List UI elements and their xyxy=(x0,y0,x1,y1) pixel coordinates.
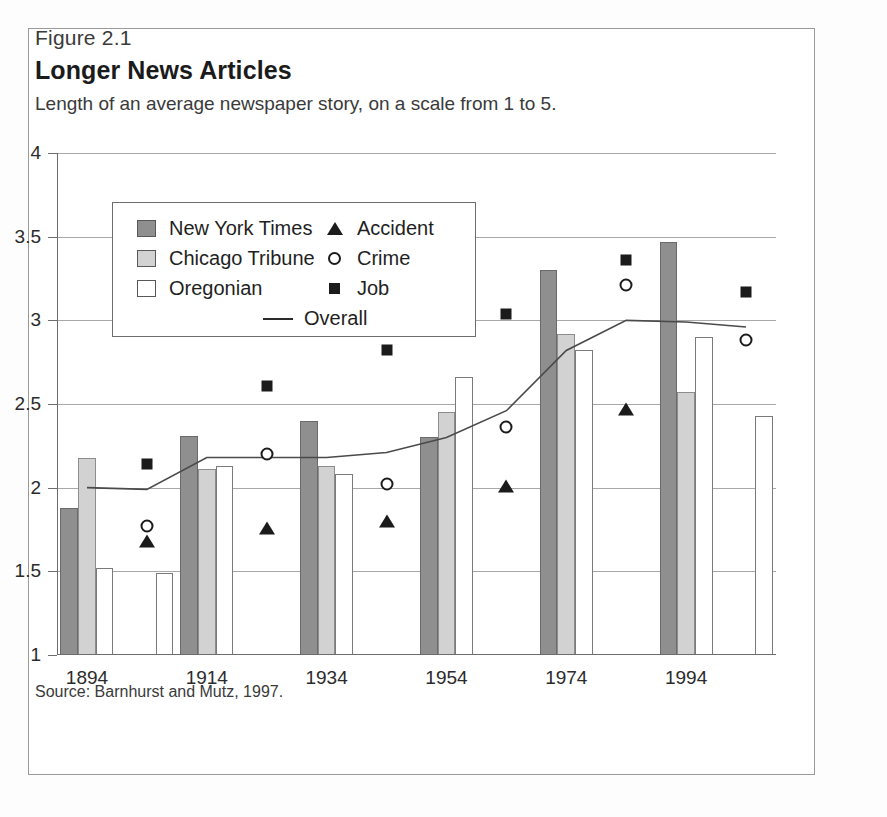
legend-swatch-dark-gray-square-icon xyxy=(137,220,156,237)
marker-accident-filled-triangle-icon xyxy=(139,535,155,548)
legend-item-chicago-tribune[interactable]: Chicago Tribune xyxy=(137,247,315,270)
legend-label: Overall xyxy=(304,307,367,330)
x-axis-line xyxy=(57,654,776,655)
bar xyxy=(96,568,114,655)
x-axis-tick-label: 1994 xyxy=(665,667,707,689)
y-axis-tick-label: 2.5 xyxy=(0,393,41,415)
legend-label: Chicago Tribune xyxy=(169,247,315,270)
y-axis-tick-label: 1.5 xyxy=(0,560,41,582)
legend-item-overall[interactable]: Overall xyxy=(263,307,367,330)
figure-number: Figure 2.1 xyxy=(35,26,132,50)
marker-job-filled-square-icon xyxy=(621,255,632,266)
figure-subtitle: Length of an average newspaper story, on… xyxy=(35,93,556,115)
marker-crime-open-circle-icon xyxy=(380,478,393,491)
x-axis-tick-label: 1934 xyxy=(305,667,347,689)
marker-accident-filled-triangle-icon xyxy=(498,479,514,492)
bar xyxy=(335,474,353,655)
bar xyxy=(216,466,234,655)
marker-job-filled-square-icon xyxy=(741,286,752,297)
solid-line-icon xyxy=(263,318,293,320)
bar xyxy=(660,242,678,655)
legend-item-job[interactable]: Job xyxy=(325,277,389,300)
y-axis-tick xyxy=(48,404,57,405)
marker-accident-filled-triangle-icon xyxy=(379,515,395,528)
legend-label: Job xyxy=(357,277,389,300)
gridline xyxy=(57,153,776,154)
figure-page: Figure 2.1 Longer News Articles Length o… xyxy=(0,0,887,817)
marker-crime-open-circle-icon xyxy=(500,421,513,434)
filled-square-icon xyxy=(325,283,344,294)
marker-crime-open-circle-icon xyxy=(140,520,153,533)
y-axis-line xyxy=(57,153,58,655)
bar xyxy=(695,337,713,655)
bar xyxy=(557,334,575,655)
marker-job-filled-square-icon xyxy=(381,345,392,356)
chart-legend: New York Times Chicago Tribune Oregonian… xyxy=(112,202,476,337)
bar xyxy=(420,437,438,655)
legend-label: Oregonian xyxy=(169,277,262,300)
bar xyxy=(318,466,336,655)
bar xyxy=(300,421,318,655)
bar xyxy=(575,350,593,655)
y-axis-tick-label: 3 xyxy=(0,309,41,331)
y-axis-tick-label: 3.5 xyxy=(0,226,41,248)
y-axis-tick xyxy=(48,153,57,154)
bar xyxy=(455,377,473,655)
bar xyxy=(198,469,216,655)
y-axis-tick xyxy=(48,488,57,489)
bar xyxy=(78,458,96,655)
marker-job-filled-square-icon xyxy=(501,308,512,319)
legend-item-oregonian[interactable]: Oregonian xyxy=(137,277,262,300)
x-axis-tick-label: 1954 xyxy=(425,667,467,689)
marker-crime-open-circle-icon xyxy=(620,279,633,292)
y-axis-tick-label: 1 xyxy=(0,644,41,666)
marker-accident-filled-triangle-icon xyxy=(259,521,275,534)
x-axis-tick-label: 1914 xyxy=(186,667,228,689)
y-axis-tick xyxy=(48,320,57,321)
y-axis-tick-label: 4 xyxy=(0,142,41,164)
bar xyxy=(180,436,198,655)
figure-title: Longer News Articles xyxy=(35,56,292,85)
bar xyxy=(156,573,174,655)
marker-accident-filled-triangle-icon xyxy=(618,403,634,416)
legend-swatch-white-square-icon xyxy=(137,280,156,297)
legend-label: New York Times xyxy=(169,217,312,240)
legend-item-accident[interactable]: Accident xyxy=(325,217,434,240)
legend-label: Crime xyxy=(357,247,410,270)
y-axis-tick-label: 2 xyxy=(0,477,41,499)
x-axis-tick-label: 1974 xyxy=(545,667,587,689)
legend-item-new-york-times[interactable]: New York Times xyxy=(137,217,312,240)
legend-item-crime[interactable]: Crime xyxy=(325,247,410,270)
open-circle-icon xyxy=(325,252,344,265)
marker-job-filled-square-icon xyxy=(141,459,152,470)
marker-crime-open-circle-icon xyxy=(260,448,273,461)
bar xyxy=(755,416,773,655)
bar xyxy=(677,392,695,655)
marker-job-filled-square-icon xyxy=(261,380,272,391)
y-axis-tick xyxy=(48,571,57,572)
legend-swatch-light-gray-square-icon xyxy=(137,250,156,267)
legend-label: Accident xyxy=(357,217,434,240)
x-axis-tick-label: 1894 xyxy=(66,667,108,689)
y-axis-tick xyxy=(48,237,57,238)
marker-crime-open-circle-icon xyxy=(740,334,753,347)
bar xyxy=(60,508,78,655)
bar xyxy=(438,412,456,655)
filled-triangle-icon xyxy=(325,222,344,235)
y-axis-tick xyxy=(48,655,57,656)
bar xyxy=(540,270,558,655)
